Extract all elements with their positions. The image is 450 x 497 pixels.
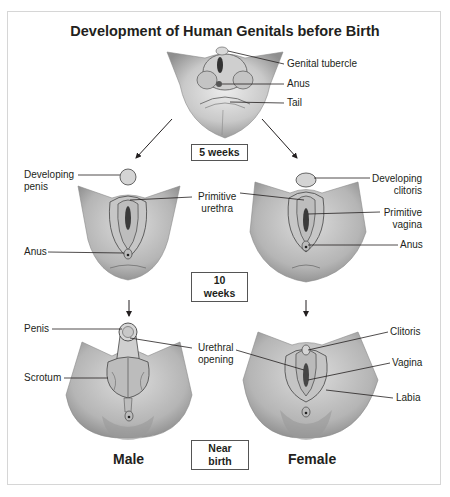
label-primitive-urethra-line2: urethra [198,203,236,215]
female-10-weeks [250,173,366,282]
diagram-title: Development of Human Genitals before Bir… [0,23,450,39]
label-primitive-vagina-line1: Primitive [372,207,422,219]
label-scrotum: Scrotum [24,372,61,384]
arrow-to-male [136,119,172,158]
label-vagina: Vagina [392,357,422,369]
label-primitive-urethra: Primitive urethra [198,191,236,215]
label-urethral-opening-line2: opening [198,354,234,366]
label-urethral-opening-line1: Urethral [198,342,234,354]
male-10-weeks [78,169,180,280]
label-anus-male-10wk: Anus [24,246,47,258]
label-anus-5wk: Anus [287,78,310,90]
stage-10-weeks: 10 weeks [191,272,248,302]
label-primitive-vagina: Primitive vagina [372,207,422,231]
illustration-canvas [0,0,450,497]
female-near-birth [243,332,378,440]
label-tail: Tail [287,97,302,109]
label-labia: Labia [396,392,420,404]
label-anus-female-10wk: Anus [400,239,423,251]
label-primitive-vagina-line2: vagina [372,219,422,231]
label-penis: Penis [24,323,49,335]
label-developing-penis-line2: penis [24,181,74,193]
stage-near-birth: Near birth [191,440,249,470]
label-genital-tubercle: Genital tubercle [287,58,357,70]
embryo-5-weeks [167,47,283,138]
label-developing-clitoris-line2: clitoris [372,185,422,197]
label-clitoris: Clitoris [390,326,421,338]
label-urethral-opening: Urethral opening [198,342,234,366]
label-developing-clitoris-line1: Developing [372,173,422,185]
caption-male: Male [113,451,144,467]
stage-5-weeks: 5 weeks [191,144,248,161]
label-developing-penis: Developing penis [24,169,74,193]
label-developing-clitoris: Developing clitoris [372,173,422,197]
arrow-to-female [262,119,297,158]
male-near-birth [66,323,192,440]
caption-female: Female [288,451,336,467]
label-primitive-urethra-line1: Primitive [198,191,236,203]
label-developing-penis-line1: Developing [24,169,74,181]
